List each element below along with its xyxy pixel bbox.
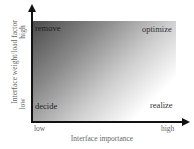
y-axis-line — [31, 10, 33, 123]
y-axis-arrow-icon — [28, 4, 36, 12]
quadrant-label-optimize: optimize — [142, 25, 172, 34]
x-axis-low-tick: low — [34, 125, 45, 133]
y-axis-labels: Interface weight/load factor low high — [2, 0, 28, 149]
y-axis-low-tick: low — [19, 98, 27, 109]
x-axis-arrow-icon — [182, 118, 190, 126]
quadrant-label-realize: realize — [150, 101, 173, 110]
x-axis-high-tick: high — [161, 125, 174, 133]
y-axis-high-tick: high — [19, 25, 27, 38]
quadrant-label-remove: remove — [35, 24, 61, 33]
quadrant-label-decide: decide — [35, 102, 57, 111]
x-axis-title: Interface importance — [52, 135, 152, 143]
x-axis-line — [31, 121, 183, 123]
